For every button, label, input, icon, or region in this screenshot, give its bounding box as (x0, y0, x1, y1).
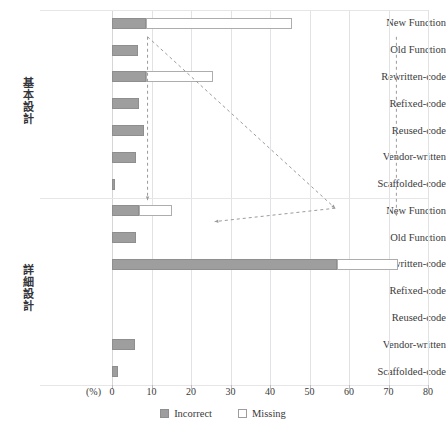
group-axis-label-detailed-design: 詳 細 設 計 (20, 265, 36, 313)
x-tick-label: 40 (255, 386, 285, 397)
bar-row (112, 366, 428, 377)
bar-row (112, 259, 428, 270)
legend-label-incorrect: Incorrect (174, 408, 212, 419)
bar-row (112, 71, 428, 82)
bar-segment-missing (146, 18, 292, 29)
x-tick-label: 10 (137, 386, 167, 397)
x-tick-label: 0 (97, 386, 127, 397)
bar-segment-incorrect (112, 125, 144, 136)
bar-segment-incorrect (112, 45, 138, 56)
bar-segment-incorrect (112, 152, 136, 163)
bar-segment-missing (337, 259, 398, 270)
bar-segment-missing (139, 205, 173, 216)
bar-row (112, 179, 428, 190)
bar-row (112, 98, 428, 109)
legend-swatch-incorrect-icon (160, 409, 169, 418)
plot-area (112, 10, 428, 385)
bar-row (112, 232, 428, 243)
legend-swatch-missing-icon (238, 409, 247, 418)
gridline-80 (428, 10, 429, 385)
bar-segment-incorrect (112, 232, 136, 243)
bar-segment-incorrect (112, 366, 118, 377)
legend-label-missing: Missing (252, 408, 286, 419)
bar-row (112, 313, 428, 324)
group-separator (40, 198, 428, 199)
bar-row (112, 339, 428, 350)
legend-item-incorrect: Incorrect (160, 408, 212, 419)
chart-root: 基 本 設 計 詳 細 設 計 New FunctionOld Function… (0, 0, 446, 437)
x-tick-label: 70 (374, 386, 404, 397)
bar-row (112, 152, 428, 163)
bar-segment-incorrect (112, 179, 115, 190)
x-tick-label: 80 (413, 386, 443, 397)
bar-segment-incorrect (112, 205, 139, 216)
group-axis-label-basic-design: 基 本 設 計 (20, 78, 36, 126)
bar-segment-incorrect (112, 71, 146, 82)
bar-segment-incorrect (112, 339, 135, 350)
bar-row (112, 18, 428, 29)
bar-row (112, 205, 428, 216)
x-tick-label: 30 (216, 386, 246, 397)
bar-segment-incorrect (112, 259, 337, 270)
bar-segment-incorrect (112, 18, 146, 29)
x-tick-label: 50 (295, 386, 325, 397)
legend-item-missing: Missing (238, 408, 286, 419)
chart-legend: Incorrect Missing (0, 408, 446, 419)
bar-segment-incorrect (112, 98, 139, 109)
x-tick-label: 20 (176, 386, 206, 397)
group-separator (40, 10, 428, 11)
x-tick-label: 60 (334, 386, 364, 397)
bar-row (112, 125, 428, 136)
bar-row (112, 286, 428, 297)
bar-segment-missing (146, 71, 213, 82)
x-axis-unit-label: (%) (86, 386, 101, 397)
bar-row (112, 45, 428, 56)
